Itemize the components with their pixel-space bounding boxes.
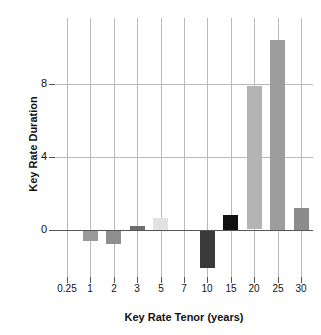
y-tick-mark: [49, 157, 55, 158]
bar-25: [270, 40, 285, 230]
y-tick-label-0: 0: [21, 223, 47, 235]
gridline-vertical: [67, 18, 68, 277]
bar-20: [247, 86, 262, 229]
gridline-vertical: [301, 18, 302, 277]
x-tick-label-30: 30: [281, 283, 321, 294]
y-tick-label-8: 8: [21, 77, 47, 89]
chart-figure: Key Rate Duration Key Rate Tenor (years)…: [0, 0, 321, 335]
bar-15: [223, 215, 238, 230]
bar-5: [153, 218, 168, 230]
y-tick-mark: [49, 230, 55, 231]
x-axis-title: Key Rate Tenor (years): [55, 311, 313, 323]
bar-1: [83, 230, 98, 241]
gridline-vertical: [231, 18, 232, 277]
zero-axis-line: [49, 230, 313, 231]
gridline-vertical: [161, 18, 162, 277]
bar-10: [200, 230, 215, 268]
gridline-vertical: [137, 18, 138, 277]
plot-area: [55, 18, 313, 277]
bar-30: [294, 208, 309, 230]
y-tick-label-4: 4: [21, 150, 47, 162]
y-tick-mark: [49, 84, 55, 85]
gridline-vertical: [184, 18, 185, 277]
bar-2: [106, 230, 121, 244]
